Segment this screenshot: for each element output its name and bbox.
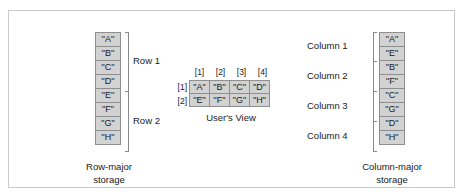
grid-cell: "H": [249, 93, 270, 107]
users-view-caption: User's View: [185, 112, 277, 123]
memory-cell: "D": [95, 74, 121, 89]
row-major-cell-stack: "A" "B" "C" "D" "E" "F" "G" "H": [95, 32, 121, 144]
bracket-tick: [373, 91, 377, 92]
bracket-tick: [373, 32, 377, 33]
column-group-bracket: [372, 32, 378, 152]
memory-cell: "H": [379, 130, 405, 145]
column-major-caption: Column-major storage: [352, 160, 432, 186]
memory-cell: "A": [95, 32, 121, 47]
column-index-label: [1]: [189, 67, 210, 77]
bracket-spine: [128, 32, 129, 152]
grid-cell: "D": [249, 80, 270, 94]
figure-frame: "A" "B" "C" "D" "E" "F" "G" "H" Row-majo…: [8, 10, 455, 188]
grid-cell: "G": [229, 93, 250, 107]
column-group-label-4: Column 4: [307, 130, 367, 141]
grid-cell: "F": [209, 93, 230, 107]
grid-row: "E" "F" "G" "H": [189, 94, 269, 107]
row-major-caption-line2: storage: [69, 173, 149, 186]
column-major-cell-stack: "A" "E" "B" "F" "C" "G" "D" "H": [379, 32, 405, 144]
row-major-caption: Row-major storage: [69, 160, 149, 186]
bracket-tick: [373, 121, 377, 122]
memory-cell: "G": [95, 116, 121, 131]
bracket-tick: [373, 61, 377, 62]
column-major-storage-group: "A" "E" "B" "F" "C" "G" "D" "H" Column-m…: [379, 32, 405, 144]
memory-cell: "B": [379, 60, 405, 75]
memory-cell: "D": [379, 116, 405, 131]
column-index-label: [4]: [252, 67, 273, 77]
row-major-storage-group: "A" "B" "C" "D" "E" "F" "G" "H" Row-majo…: [95, 32, 121, 144]
memory-cell: "B": [95, 46, 121, 61]
column-index-label: [2]: [210, 67, 231, 77]
memory-cell: "F": [95, 102, 121, 117]
grid-cell: "A": [189, 80, 210, 94]
memory-cell: "F": [379, 74, 405, 89]
row-group-label-1: Row 1: [133, 55, 160, 66]
column-major-caption-line2: storage: [352, 173, 432, 186]
column-group-label-3: Column 3: [307, 100, 367, 111]
users-view-column-indices: [1] [2] [3] [4]: [189, 67, 273, 77]
users-view-grid: "A" "B" "C" "D" "E" "F" "G" "H": [189, 80, 269, 107]
row-index-label: [2]: [173, 94, 187, 108]
memory-cell: "H": [95, 130, 121, 145]
grid-cell: "E": [189, 93, 210, 107]
grid-cell: "C": [229, 80, 250, 94]
memory-cell: "A": [379, 32, 405, 47]
memory-cell: "E": [379, 46, 405, 61]
column-group-label-2: Column 2: [307, 70, 367, 81]
row-group-label-2: Row 2: [133, 115, 160, 126]
column-index-label: [3]: [231, 67, 252, 77]
column-major-caption-line1: Column-major: [352, 160, 432, 173]
bracket-tick: [125, 151, 129, 152]
row-index-label: [1]: [173, 80, 187, 94]
memory-cell: "E": [95, 88, 121, 103]
bracket-spine: [373, 32, 374, 152]
users-view-row-indices: [1] [2]: [173, 80, 187, 108]
bracket-tick: [125, 32, 129, 33]
grid-row: "A" "B" "C" "D": [189, 80, 269, 94]
bracket-tick: [373, 151, 377, 152]
row-major-caption-line1: Row-major: [69, 160, 149, 173]
memory-cell: "C": [379, 88, 405, 103]
bracket-tick: [125, 91, 129, 92]
column-group-label-1: Column 1: [307, 40, 367, 51]
memory-cell: "G": [379, 102, 405, 117]
memory-cell: "C": [95, 60, 121, 75]
row-group-bracket: [124, 32, 130, 152]
grid-cell: "B": [209, 80, 230, 94]
